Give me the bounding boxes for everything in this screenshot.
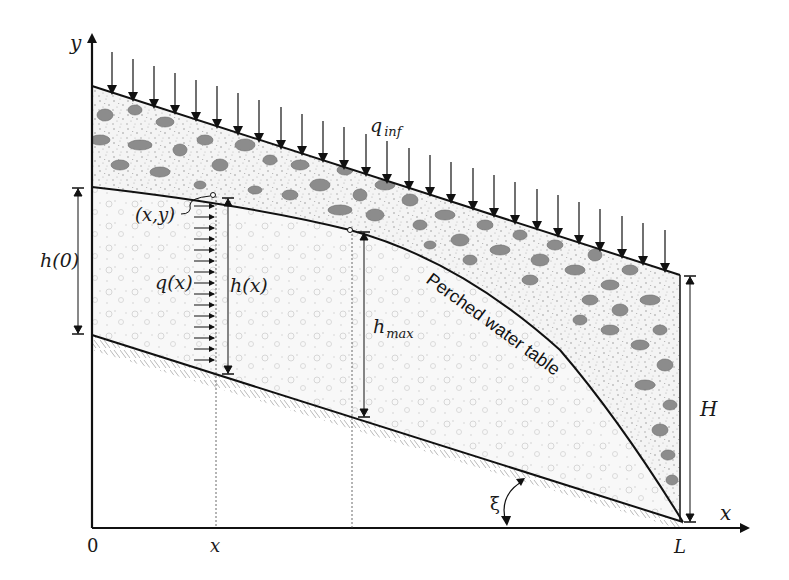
origin-label: 0 [87,535,98,556]
angle-arrowhead-bottom [501,516,511,526]
slope-angle-label: ξ [490,493,500,514]
perched-water-table-diagram: y x 0 x L qinf Perched water [0,0,789,580]
y-axis-label: y [69,31,82,55]
point-xy-marker [211,193,216,198]
point-xy-label: (x,y) [135,204,175,225]
qx-label: q(x) [155,271,193,293]
x-tick-label: x [210,535,220,556]
hmax-point-marker [348,228,353,233]
x-axis-label: x [720,501,731,525]
infiltration-label: qinf [370,114,404,139]
H-label: H [699,397,718,421]
hx-label: h(x) [230,274,268,296]
length-label: L [673,536,686,557]
h0-label: h(0) [40,249,79,271]
H-dimension [684,276,696,522]
